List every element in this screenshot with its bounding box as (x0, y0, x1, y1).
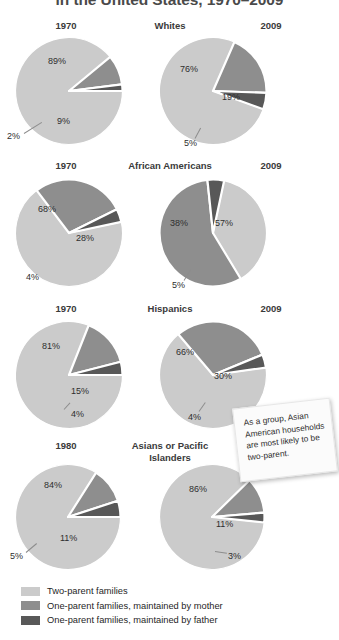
slice-label-mother: 15% (71, 386, 89, 396)
slice-label-mother: 9% (57, 116, 70, 126)
slice-label-father: 4% (71, 409, 84, 419)
callout-text: As a group, Asian American households ar… (243, 408, 330, 463)
year-label-left: 1980 (7, 440, 125, 452)
pie-chart-african-americans-2009 (158, 178, 268, 288)
slice-label-two-parent: 84% (44, 480, 62, 490)
year-label-left: 1970 (7, 303, 125, 315)
year-label-left: 1970 (7, 160, 125, 172)
slice-label-two-parent: 81% (42, 341, 60, 351)
slice-label-father: 5% (172, 280, 185, 290)
slice-label-two-parent: 68% (38, 204, 56, 214)
pie-chart-hispanics-1970 (14, 320, 124, 430)
slice-label-two-parent: 86% (189, 484, 207, 494)
slice-label-mother: 11% (216, 519, 233, 529)
slice-label-mother: 30% (214, 371, 232, 381)
infographic-canvas: in the United States, 1970–2009 1970 Whi… (0, 0, 339, 640)
slice-label-father: 5% (10, 551, 23, 561)
slice-label-two-parent: 76% (180, 64, 198, 74)
slice-label-mother: 28% (76, 233, 94, 243)
slice-label-father: 2% (7, 131, 20, 141)
year-label-right: 2009 (212, 303, 330, 315)
year-label-right: 2009 (212, 160, 330, 172)
year-label-left: 1970 (7, 20, 125, 32)
pie-chart-whites-2009 (158, 36, 268, 146)
legend-label: One-parent families, maintained by mothe… (47, 601, 223, 611)
slice-label-father: 3% (228, 551, 241, 561)
slice-label-father: 4% (188, 412, 201, 422)
callout-sticky-note: As a group, Asian American households ar… (232, 398, 338, 483)
legend-item-mother: One-parent families, maintained by mothe… (21, 599, 321, 614)
slice-label-two-parent: 38% (170, 218, 188, 228)
legend-item-two-parent: Two-parent families (21, 584, 321, 599)
slice-label-mother: 19% (222, 92, 240, 102)
year-label-right: 2009 (212, 20, 330, 32)
slice-label-two-parent: 89% (48, 56, 66, 66)
slice-label-two-parent: 66% (176, 347, 194, 357)
legend-swatch-icon (21, 616, 40, 625)
pie-chart-asians-1980 (14, 463, 122, 571)
slice-label-mother: 57% (215, 218, 233, 228)
slice-label-father: 4% (26, 272, 39, 282)
legend-label: Two-parent families (47, 586, 128, 596)
legend-swatch-icon (21, 587, 40, 596)
slice-label-mother: 11% (60, 533, 77, 543)
legend-label: One-parent families, maintained by fathe… (47, 615, 218, 625)
legend-swatch-icon (21, 601, 40, 610)
slice-label-father: 5% (184, 138, 197, 148)
legend: Two-parent families One-parent families,… (21, 584, 321, 628)
page-title: in the United States, 1970–2009 (0, 0, 339, 9)
legend-item-father: One-parent families, maintained by fathe… (21, 613, 321, 628)
